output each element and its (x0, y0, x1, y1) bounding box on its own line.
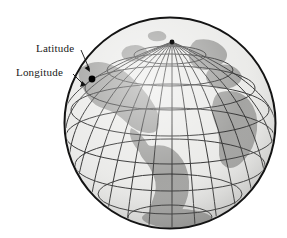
globe-figure: Latitude Longitude (0, 0, 287, 238)
north-pole-point (170, 40, 175, 45)
latitude-label: Latitude (36, 42, 74, 54)
marked-point (89, 76, 96, 83)
globe-shading (65, 18, 276, 229)
globe-illustration (0, 0, 287, 238)
longitude-label: Longitude (16, 66, 63, 78)
